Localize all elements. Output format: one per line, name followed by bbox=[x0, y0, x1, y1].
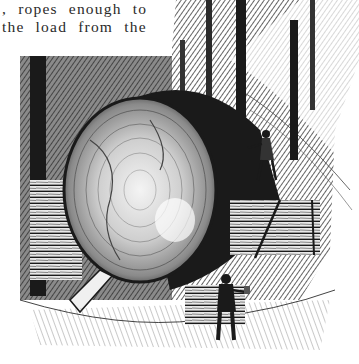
right-cribbing bbox=[230, 200, 320, 258]
engraving-illustration bbox=[0, 0, 359, 364]
log-cross-section bbox=[64, 98, 216, 282]
